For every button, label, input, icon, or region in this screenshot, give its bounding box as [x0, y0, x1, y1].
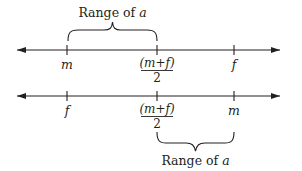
top-range-label: Range of a	[78, 5, 146, 20]
top-midpoint-denominator: 2	[153, 71, 161, 85]
curly-brace-icon	[157, 132, 234, 151]
bottom-label-m: m	[228, 103, 240, 118]
bottom-number-line: f (m+f) 2 m Range of a	[17, 91, 280, 168]
top-number-line: Range of a m (m+f) 2 f	[17, 5, 280, 85]
top-midpoint-numerator: (m+f)	[139, 56, 175, 70]
top-label-midpoint: (m+f) 2	[139, 56, 175, 85]
bottom-label-f: f	[64, 103, 72, 118]
top-range-brace: Range of a	[68, 5, 157, 41]
bottom-midpoint-numerator: (m+f)	[139, 102, 175, 116]
bottom-range-brace: Range of a	[157, 132, 234, 168]
curly-brace-icon	[68, 22, 157, 41]
bottom-label-midpoint: (m+f) 2	[139, 102, 175, 131]
bottom-range-label: Range of a	[161, 153, 229, 168]
top-label-m: m	[61, 57, 73, 72]
top-label-f: f	[231, 57, 239, 72]
number-line-diagram: Range of a m (m+f) 2 f f (m+f) 2 m Ran	[0, 0, 302, 171]
bottom-midpoint-denominator: 2	[153, 117, 161, 131]
